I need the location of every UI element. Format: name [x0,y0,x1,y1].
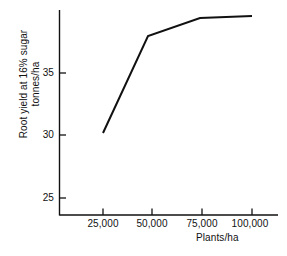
y-axis-label: Root yield at 16% sugar tonnes/ha [10,0,50,174]
data-series-line [103,16,252,133]
x-tick-label-50000: 50,000 [124,218,180,229]
x-tick-label-100000: 100,000 [222,218,278,229]
chart-figure: 35 30 25 25,000 50,000 75,000 100,000 Ro… [0,0,287,256]
y-axis-label-text: Root yield at 16% sugar tonnes/ha [18,30,42,138]
x-axis-label: Plants/ha [196,232,239,243]
y-tick-label-25: 25 [20,192,54,203]
x-tick-label-25000: 25,000 [75,218,131,229]
